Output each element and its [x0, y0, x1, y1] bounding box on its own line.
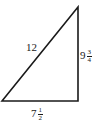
- hypotenuse-label: 12: [26, 42, 37, 53]
- horizontal-leg-denominator: 2: [38, 115, 44, 120]
- hypotenuse-value: 12: [26, 41, 37, 53]
- horizontal-leg-label: 712: [31, 107, 43, 120]
- vertical-leg-denominator: 4: [87, 57, 93, 64]
- right-triangle: [2, 7, 78, 101]
- vertical-leg-whole: 9: [80, 49, 86, 61]
- vertical-leg-label: 934: [80, 49, 92, 64]
- vertical-leg-fraction: 34: [87, 49, 93, 64]
- horizontal-leg-fraction: 12: [38, 107, 44, 120]
- horizontal-leg-whole: 7: [31, 107, 37, 119]
